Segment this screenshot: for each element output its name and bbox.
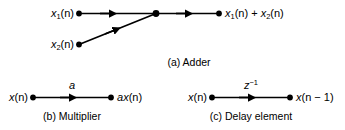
multiplier-caption: (b) Multiplier: [43, 111, 101, 122]
multiplier-output-label: ax(n): [117, 92, 142, 103]
adder-input2-arrowhead: [105, 29, 117, 34]
adder-output-node: [216, 11, 222, 17]
multiplier-graph: [30, 95, 114, 101]
multiplier-output-node: [108, 95, 114, 101]
delay-input-node: [209, 95, 215, 101]
multiplier-input-node: [30, 95, 36, 101]
multiplier-input-label: x(n): [9, 92, 28, 103]
adder-caption: (a) Adder: [167, 57, 210, 68]
adder-input2-node: [76, 42, 82, 48]
delay-output-label: x(n − 1): [296, 92, 334, 103]
delay-input-label: x(n): [188, 92, 207, 103]
delay-caption: (c) Delay element: [210, 111, 292, 122]
adder-input1-node: [76, 11, 82, 17]
adder-input2-label: x2(n): [51, 39, 74, 52]
adder-input1-label: x1(n): [51, 8, 74, 21]
delay-gain-label: z−1: [244, 79, 258, 91]
adder-graph: [76, 10, 222, 47]
adder-summing-node: [153, 10, 160, 17]
delay-output-node: [287, 95, 293, 101]
adder-input2-branch: [79, 14, 156, 45]
delay-graph: [209, 95, 293, 101]
multiplier-gain-label: a: [69, 80, 75, 91]
adder-output-label: x1(n) + x2(n): [225, 8, 284, 21]
signal-flow-graph-figure: x1(n) x2(n) x1(n) + x2(n) (a) Adder x(n)…: [0, 0, 345, 130]
